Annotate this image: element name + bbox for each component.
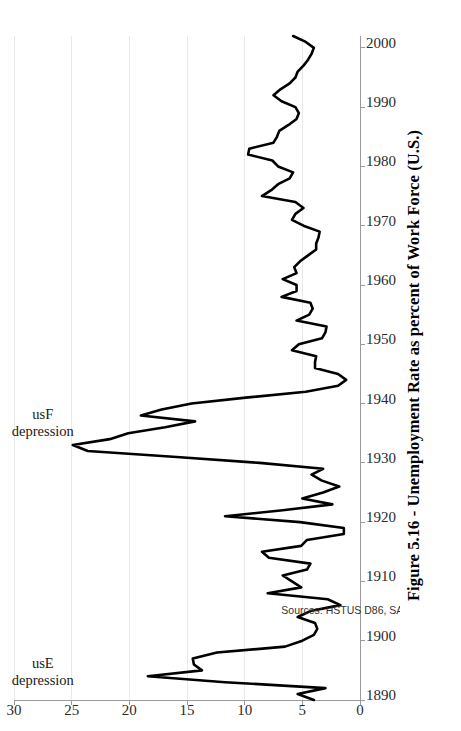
y-tick-label-20: 20 — [122, 702, 137, 718]
y-axis-tick-labels: 051015202530 — [7, 702, 364, 718]
x-axis-tick-labels: 1890190019101920193019401950196019701980… — [366, 35, 396, 703]
unemployment-line-chart: 1890190019101920193019401950196019701980… — [0, 0, 400, 731]
x-tick-label-1960: 1960 — [366, 272, 396, 288]
gridlines — [14, 36, 302, 700]
y-tick-label-25: 25 — [64, 702, 79, 718]
annotation-line2: depression — [12, 423, 75, 439]
x-tick-label-2000: 2000 — [366, 35, 396, 51]
x-tick-label-1970: 1970 — [366, 213, 396, 229]
annotation-line1: usF — [32, 406, 53, 422]
source-note-text: Sources: HSTUS D86, SAUS — [281, 604, 400, 616]
source-note: Sources: HSTUS D86, SAUS — [281, 604, 400, 616]
annotation-use-depression: usEdepression — [12, 655, 75, 688]
unemployment-rate-line — [73, 36, 346, 700]
x-tick-label-1920: 1920 — [366, 509, 396, 525]
x-tick-label-1930: 1930 — [366, 450, 396, 466]
figure-caption: Figure 5.16 - Unemployment Rate as perce… — [404, 0, 424, 731]
plot-area: 1890190019101920193019401950196019701980… — [0, 0, 400, 731]
x-tick-label-1890: 1890 — [366, 687, 396, 703]
y-tick-label-15: 15 — [180, 702, 195, 718]
chart-annotations: usEdepressionusFdepression — [12, 406, 75, 688]
x-tick-label-1980: 1980 — [366, 153, 396, 169]
x-tick-label-1940: 1940 — [366, 391, 396, 407]
y-tick-label-5: 5 — [299, 702, 307, 718]
y-tick-label-0: 0 — [356, 702, 364, 718]
rotated-figure-stage: 1890190019101920193019401950196019701980… — [0, 0, 461, 731]
y-tick-label-30: 30 — [7, 702, 22, 718]
data-series — [73, 36, 346, 700]
x-tick-label-1950: 1950 — [366, 331, 396, 347]
y-tick-label-10: 10 — [237, 702, 252, 718]
x-tick-label-1900: 1900 — [366, 628, 396, 644]
x-tick-label-1990: 1990 — [366, 94, 396, 110]
annotation-usf-depression: usFdepression — [12, 406, 75, 439]
annotation-line2: depression — [12, 672, 75, 688]
figure-container: 1890190019101920193019401950196019701980… — [0, 0, 461, 731]
annotation-line1: usE — [32, 655, 54, 671]
x-tick-label-1910: 1910 — [366, 568, 396, 584]
